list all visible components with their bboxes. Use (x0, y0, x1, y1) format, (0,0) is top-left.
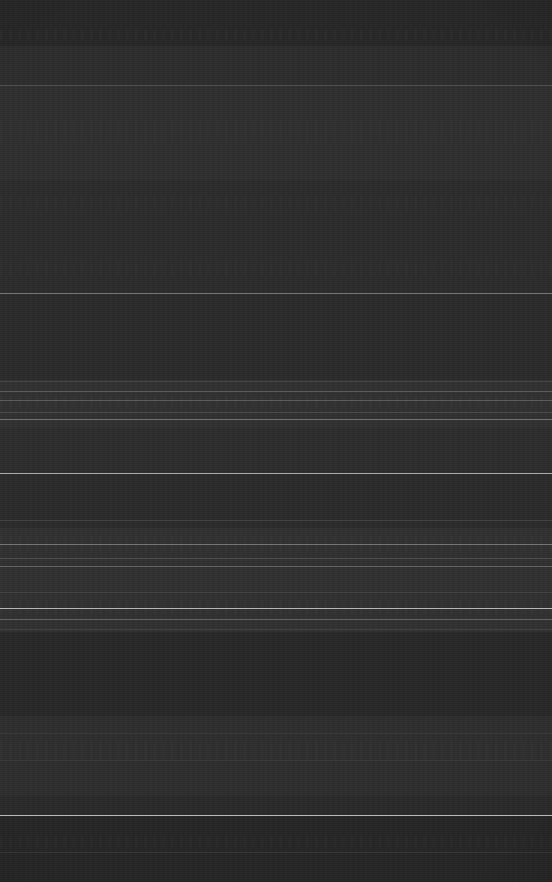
divider-bright-mid (0, 608, 552, 609)
divider-bright-footer (0, 815, 552, 816)
divider-cluster-b-6 (0, 619, 552, 620)
upper-mid-field (0, 180, 552, 293)
divider-cluster-a-4 (0, 419, 552, 420)
dense-cluster-c (0, 716, 552, 796)
divider-lower-faint (0, 733, 552, 734)
divider-cluster-b-4 (0, 566, 552, 567)
upper-field (0, 46, 552, 85)
divider-cluster-b-3 (0, 558, 552, 559)
footer-field (0, 815, 552, 882)
dense-cluster-a (0, 380, 552, 428)
screen-capture (0, 0, 552, 882)
mid-lower-field (0, 428, 552, 473)
divider-mid (0, 293, 552, 294)
divider-header (0, 85, 552, 86)
divider-lower-2 (0, 760, 552, 761)
divider-cluster-a-2 (0, 400, 552, 401)
divider-cluster-a-3 (0, 412, 552, 413)
divider-cluster-a-top (0, 381, 552, 382)
divider-bright-upper (0, 473, 552, 474)
header-field (0, 85, 552, 180)
divider-cluster-b-5 (0, 592, 552, 593)
divider-cluster-a-1 (0, 391, 552, 392)
quiet-field (0, 632, 552, 716)
divider-cluster-b-1 (0, 520, 552, 521)
divider-footer-2 (0, 852, 552, 853)
divider-cluster-b-2 (0, 544, 552, 545)
divider-cluster-b-7 (0, 629, 552, 630)
mid-field (0, 293, 552, 380)
lower-field (0, 796, 552, 815)
top-strip (0, 0, 552, 46)
